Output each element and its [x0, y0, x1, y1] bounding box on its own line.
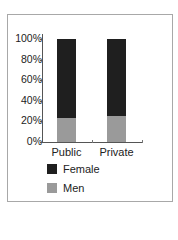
legend-label-men: Men: [63, 182, 84, 194]
y-tick-label: 80%: [12, 54, 42, 65]
legend-label-female: Female: [63, 163, 100, 175]
x-tick-label: Private: [92, 146, 142, 158]
y-tick-label: 100%: [12, 33, 42, 44]
legend-item-men: Men: [47, 182, 84, 194]
y-tick-label: 40%: [12, 95, 42, 106]
y-tick-label: 20%: [12, 115, 42, 126]
bar-segment-men: [107, 116, 126, 142]
bar-private: [107, 39, 126, 142]
legend-item-female: Female: [47, 163, 100, 175]
x-tick-mark: [92, 140, 93, 143]
y-tick-label: 0%: [12, 136, 42, 147]
female-swatch-icon: [47, 164, 57, 174]
men-swatch-icon: [47, 183, 57, 193]
bar-segment-female: [57, 39, 76, 118]
x-tick-mark: [142, 140, 143, 143]
bar-segment-men: [57, 118, 76, 142]
bar-segment-female: [107, 39, 126, 116]
y-axis: [42, 34, 43, 143]
x-tick-label: Public: [42, 146, 92, 158]
y-tick-label: 60%: [12, 74, 42, 85]
bar-public: [57, 39, 76, 142]
